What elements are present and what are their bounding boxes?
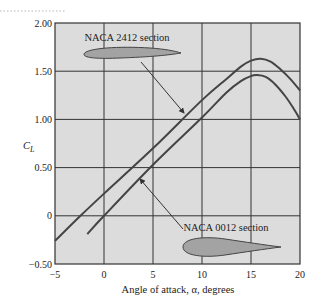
svg-text:0: 0	[102, 269, 107, 280]
svg-text:−0.50: −0.50	[29, 259, 52, 270]
y-tick-labels: −0.5000.501.001.502.00	[29, 18, 52, 270]
x-axis-label: Angle of attack, α, degrees	[122, 284, 235, 295]
svg-text:1.00: 1.00	[35, 114, 53, 125]
svg-text:5: 5	[151, 269, 156, 280]
svg-text:0.50: 0.50	[35, 162, 53, 173]
svg-text:10: 10	[197, 269, 207, 280]
naca-2412-label: NACA 2412 section	[84, 32, 170, 43]
svg-text:1.50: 1.50	[35, 66, 53, 77]
y-axis-label: CL	[23, 140, 35, 154]
svg-text:0: 0	[47, 210, 52, 221]
lift-coefficient-chart: −0.5000.501.001.502.00 −505101520 NACA 2…	[0, 0, 323, 307]
naca-0012-label: NACA 0012 section	[183, 222, 269, 233]
svg-text:2.00: 2.00	[35, 18, 53, 29]
svg-text:−5: −5	[50, 269, 61, 280]
svg-text:15: 15	[246, 269, 256, 280]
x-tick-labels: −505101520	[50, 269, 305, 280]
svg-text:20: 20	[295, 269, 305, 280]
